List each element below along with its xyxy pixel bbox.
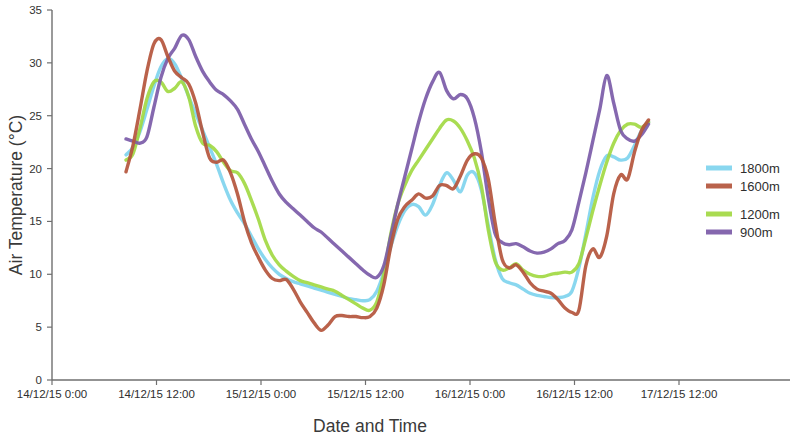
x-tick-label: 15/12/15 12:00 — [327, 388, 404, 400]
x-axis: 14/12/15 0:0014/12/15 12:0015/12/15 0:00… — [17, 380, 790, 400]
x-tick-label: 15/12/15 0:00 — [226, 388, 296, 400]
x-tick-label: 16/12/15 0:00 — [435, 388, 505, 400]
x-axis-title: Date and Time — [313, 416, 427, 436]
series-line-900m — [126, 35, 649, 278]
y-tick-label: 10 — [29, 268, 42, 280]
legend-label-900m[interactable]: 900m — [740, 225, 773, 240]
chart-legend: 1800m1600m1200m900m — [706, 161, 780, 240]
x-tick-label: 14/12/15 0:00 — [17, 388, 87, 400]
legend-label-1600m[interactable]: 1600m — [740, 179, 780, 194]
y-axis-title: Air Temperature (°C) — [6, 115, 26, 275]
y-tick-label: 25 — [29, 110, 42, 122]
y-tick-label: 0 — [36, 374, 42, 386]
temperature-line-chart: 05101520253035 14/12/15 0:0014/12/15 12:… — [0, 0, 796, 441]
x-tick-label: 14/12/15 12:00 — [118, 388, 195, 400]
y-tick-label: 5 — [36, 321, 42, 333]
y-axis: 05101520253035 — [29, 4, 52, 386]
series-lines — [126, 35, 649, 330]
series-line-1600m — [126, 39, 649, 331]
chart-canvas: 05101520253035 14/12/15 0:0014/12/15 12:… — [0, 0, 796, 441]
y-tick-label: 35 — [29, 4, 42, 16]
legend-label-1200m[interactable]: 1200m — [740, 207, 780, 222]
legend-label-1800m[interactable]: 1800m — [740, 161, 780, 176]
y-tick-label: 30 — [29, 57, 42, 69]
y-tick-label: 20 — [29, 163, 42, 175]
x-tick-label: 17/12/15 12:00 — [641, 388, 718, 400]
x-tick-label: 16/12/15 12:00 — [536, 388, 613, 400]
y-tick-label: 15 — [29, 215, 42, 227]
